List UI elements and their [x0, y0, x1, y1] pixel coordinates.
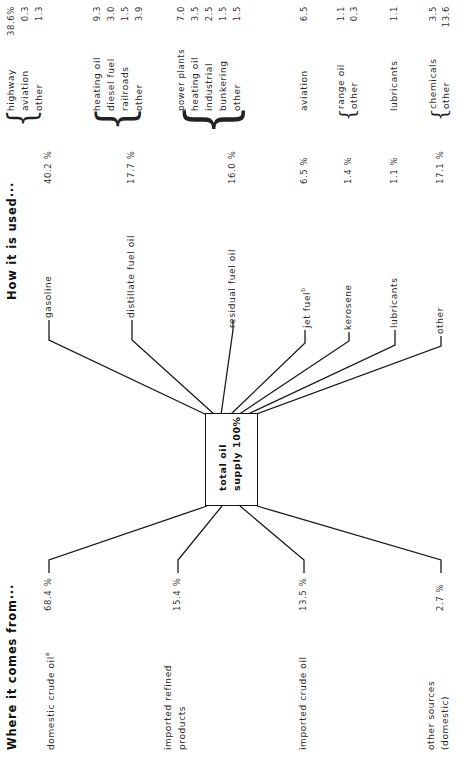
- use-label: heating oil: [190, 57, 200, 111]
- use-label: power plants: [176, 49, 186, 111]
- product-jet-fuel-label: jet fuelb: [299, 287, 312, 328]
- use-value: 1.5: [120, 6, 130, 36]
- use-value: 2.5: [204, 6, 214, 36]
- product-residual-label: residual fuel oil: [227, 249, 237, 328]
- use-value: 1.5: [232, 6, 242, 36]
- source-domestic-crude-percent: 68.4 %: [43, 578, 53, 611]
- source-imported-crude-label: imported crude oil: [298, 656, 308, 750]
- source-imported-refined-label: imported refined: [163, 665, 173, 750]
- product-distillate-label: distillate fuel oil: [126, 235, 136, 318]
- oil-supply-flow-diagram: Where it comes from··· How it is used···…: [0, 0, 464, 761]
- use-label: other: [441, 82, 451, 109]
- use-label: aviation: [299, 70, 309, 111]
- source-imported-crude-percent: 13.5 %: [298, 578, 308, 611]
- use-value: 1.3: [34, 6, 44, 36]
- total-supply-line1: total oil: [217, 444, 228, 491]
- use-label: range oil: [336, 64, 346, 109]
- uses-title: How it is used···: [5, 182, 19, 300]
- brace-icon: {: [4, 109, 40, 127]
- brace-icon: {: [337, 108, 357, 121]
- use-label: other: [349, 82, 359, 109]
- product-other-label: other: [435, 307, 445, 334]
- use-label: heating oil: [92, 57, 102, 111]
- product-residual-percent: 16.0 %: [227, 151, 237, 184]
- use-label: other: [134, 84, 144, 111]
- use-value: 1.5: [218, 6, 228, 36]
- use-label: chemicals: [428, 58, 438, 109]
- use-value: 9.3: [92, 6, 102, 36]
- total-supply-box: total oil supply 100%: [205, 413, 258, 506]
- source-imported-refined-percent: 15.4 %: [172, 578, 182, 611]
- product-kerosene-percent: 1.4 %: [343, 157, 353, 184]
- product-gasoline-label: gasoline: [43, 276, 53, 318]
- use-label: diesel fuel: [106, 58, 116, 111]
- use-label: lubricants: [389, 60, 399, 111]
- use-value: 3.5: [428, 6, 438, 36]
- product-jet-fuel-percent: 6.5 %: [299, 157, 309, 184]
- product-lubricants-label: lubricants: [389, 277, 399, 328]
- sources-title: Where it comes from···: [5, 584, 19, 750]
- use-label: aviation: [20, 70, 30, 111]
- source-imported-refined-label2: products: [177, 706, 187, 750]
- brace-icon: {: [429, 108, 449, 121]
- use-value: 7.0: [176, 6, 186, 36]
- use-value: 38.6%: [6, 6, 16, 36]
- source-other-percent: 2.7 %: [435, 584, 445, 611]
- total-supply-line2: supply 100%: [231, 416, 242, 491]
- use-label: bunkering: [218, 60, 228, 111]
- use-value: 13.6: [441, 6, 451, 36]
- source-other-label: other sources: [426, 681, 436, 750]
- product-distillate-percent: 17.7 %: [126, 151, 136, 184]
- use-label: other: [34, 84, 44, 111]
- source-other-label2: (domestic): [440, 696, 450, 750]
- source-domestic-crude-label: domestic crude oila: [43, 652, 56, 750]
- use-value: 1.1: [389, 6, 399, 36]
- use-value: 1.1: [336, 6, 346, 36]
- use-value: 3.9: [134, 6, 144, 36]
- use-label: railroads: [120, 66, 130, 111]
- product-lubricants-percent: 1.1 %: [389, 157, 399, 184]
- use-value: 0.3: [20, 6, 30, 36]
- use-label: industrial: [204, 63, 214, 111]
- product-kerosene-label: kerosene: [343, 284, 353, 330]
- use-value: 6.5: [299, 6, 309, 36]
- use-label: other: [232, 84, 242, 111]
- use-value: 3.5: [190, 6, 200, 36]
- use-value: 3.0: [106, 6, 116, 36]
- product-gasoline-percent: 40.2 %: [43, 151, 53, 184]
- use-value: 0.3: [349, 6, 359, 36]
- use-label: highway: [6, 69, 16, 111]
- product-other-percent: 17.1 %: [435, 151, 445, 184]
